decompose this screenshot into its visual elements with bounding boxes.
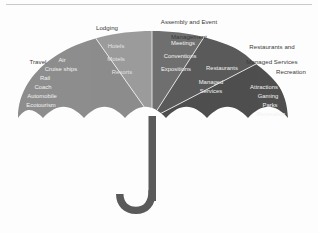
subitem-lodging-motels: Motels [107,56,124,62]
subitem-recreation-gaming: Gaming [258,93,279,99]
subitem-travel-coach: Coach [34,84,51,90]
label-lodging: Lodging [82,24,132,31]
subitem-recreation-recreation: Recreation [257,111,286,117]
label-recreation: Recreation [268,68,314,75]
subitem-assembly-conventions: Conventions [164,53,197,59]
label-travel: Travel [18,58,58,65]
subitem-recreation-attractions: Attractions [250,84,278,90]
label-assembly-line2: Management [146,33,232,40]
subitem-recreation-parks: Parks [262,102,277,108]
subitem-lodging-hotels: Hotels [108,43,125,49]
label-assembly: Assembly and Event Management [146,11,232,48]
subitem-lodging-resorts: Resorts [112,69,132,75]
subitem-assembly-expositions: Expositions [161,66,191,72]
subitem-travel-air: Air [58,57,65,63]
subitem-travel-cruise-ships: Cruise ships [45,66,77,72]
diagram-canvas: Air Cruise ships Rail Coach Automobile E… [0,0,318,233]
subitem-travel-automobile: Automobile [27,93,57,99]
subitem-restaurants-managed: Managed [199,79,224,85]
label-restaurants-line2: Managed Services [232,58,312,65]
umbrella-handle [116,116,156,214]
subitem-travel-rail: Rail [40,75,50,81]
label-restaurants-line1: Restaurants and [232,43,312,50]
subitem-travel-ecotourism: Ecotourism [26,102,56,108]
label-assembly-line1: Assembly and Event [146,18,232,25]
subitem-restaurants-services: Services [200,88,223,94]
